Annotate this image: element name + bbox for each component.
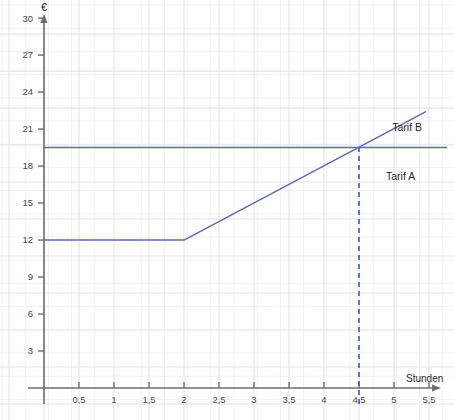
x-tick-label: 2: [181, 394, 186, 405]
x-tick-label: 0,5: [72, 394, 85, 405]
series-label-tarif-a: Tarif A: [386, 170, 415, 182]
y-tick-label: 15: [22, 197, 33, 208]
y-tick-label: 18: [22, 160, 33, 171]
series-label-tarif-b: Tarif B: [392, 121, 422, 133]
y-tick-label: 30: [22, 13, 33, 24]
y-tick-label: 27: [22, 49, 33, 60]
chart-canvas: 36912151821242730 0,511,522,533,544,555,…: [0, 0, 454, 420]
chart-background: [0, 0, 454, 420]
x-tick-label: 3: [251, 394, 256, 405]
y-tick-label: 9: [28, 271, 33, 282]
x-tick-label: 1: [111, 394, 116, 405]
y-axis-unit-label: €: [41, 1, 47, 13]
x-axis-title: Stunden: [406, 373, 443, 384]
y-tick-label: 3: [28, 345, 33, 356]
x-tick-label: 2,5: [212, 394, 225, 405]
tariff-comparison-chart: 36912151821242730 0,511,522,533,544,555,…: [0, 0, 454, 420]
y-tick-label: 21: [22, 123, 33, 134]
x-tick-label: 1,5: [142, 394, 155, 405]
x-tick-label: 3,5: [282, 394, 295, 405]
x-tick-label: 4: [321, 394, 326, 405]
x-tick-label: 5: [391, 394, 396, 405]
y-tick-label: 24: [22, 86, 33, 97]
x-tick-label: 5,5: [422, 394, 435, 405]
y-tick-label: 12: [22, 234, 33, 245]
y-tick-label: 6: [28, 308, 33, 319]
